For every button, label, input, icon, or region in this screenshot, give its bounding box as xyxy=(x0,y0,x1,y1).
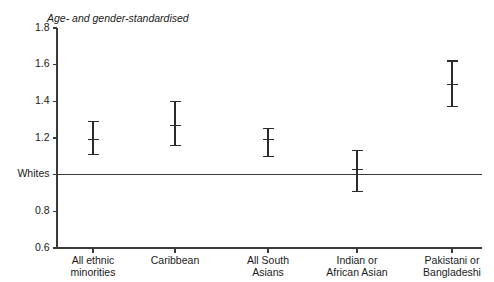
error-bar-point xyxy=(263,129,274,157)
y-axis-tick-label: 1.8 xyxy=(35,21,50,33)
y-axis: 1.81.61.41.2Whites0.80.6 xyxy=(17,21,57,253)
x-axis-category-label: Pakistani or xyxy=(425,254,480,266)
y-axis-tick-label: 0.8 xyxy=(35,204,50,216)
chart-title: Age- and gender-standardised xyxy=(46,12,190,24)
chart-canvas: Age- and gender-standardised 1.81.61.41.… xyxy=(0,0,494,282)
y-axis-tick-label: 1.4 xyxy=(35,94,50,106)
error-bar-point xyxy=(170,101,181,145)
error-bar-point xyxy=(447,61,458,107)
data-series xyxy=(88,61,458,191)
y-axis-tick-label: 1.6 xyxy=(35,57,50,69)
error-bar-point xyxy=(88,122,99,155)
x-axis-category-label: minorities xyxy=(71,266,116,278)
y-axis-tick-label: 0.6 xyxy=(35,241,50,253)
x-axis-category-label: Asians xyxy=(252,266,284,278)
x-axis-category-label: Indian or xyxy=(337,254,378,266)
x-axis xyxy=(57,248,482,253)
x-axis-category-label: Bangladeshi xyxy=(423,266,481,278)
x-axis-category-label: All ethnic xyxy=(72,254,115,266)
y-axis-tick-label: 1.2 xyxy=(35,131,50,143)
x-axis-category-label: Caribbean xyxy=(151,254,200,266)
x-axis-category-label: African Asian xyxy=(326,266,387,278)
error-bar-chart: Age- and gender-standardised 1.81.61.41.… xyxy=(0,0,494,282)
y-axis-reference-label: Whites xyxy=(17,167,49,179)
error-bar-point xyxy=(352,151,363,191)
x-axis-category-label: All South xyxy=(247,254,289,266)
chart-title-group: Age- and gender-standardised xyxy=(46,12,190,24)
x-axis-tick-labels: All ethnicminoritiesCaribbeanAll SouthAs… xyxy=(71,254,481,278)
